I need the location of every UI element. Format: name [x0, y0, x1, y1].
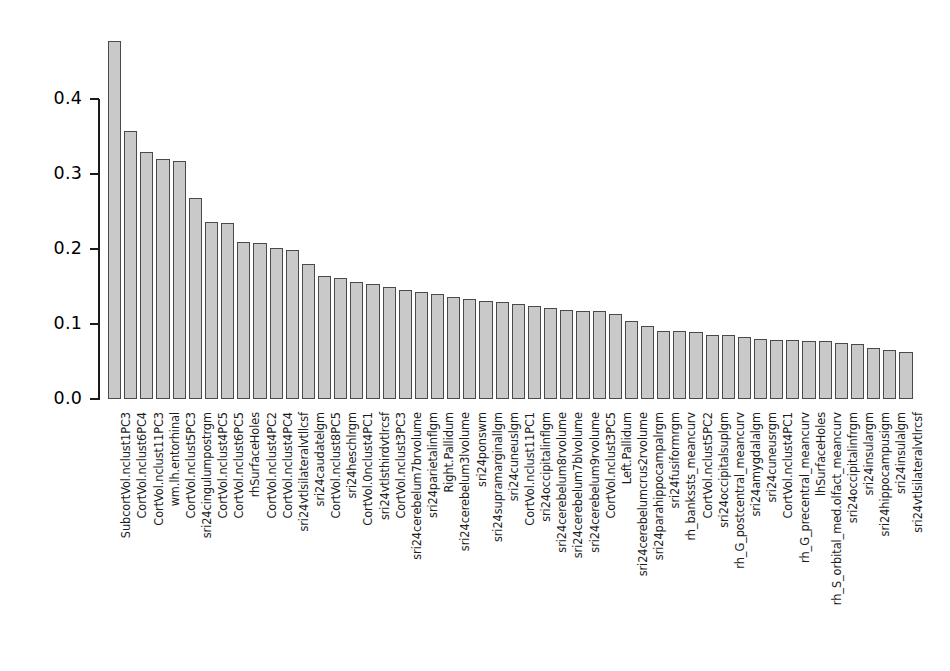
bar — [221, 223, 234, 399]
bar — [641, 326, 654, 400]
x-tick-label: CortVol.nclust4PC1 — [781, 412, 795, 519]
x-tick-label: sri24heschlrgm — [345, 412, 359, 499]
bar — [657, 331, 670, 399]
bar — [205, 222, 218, 399]
x-tick-label: CortVol.nclust3PC3 — [394, 412, 408, 519]
x-tick-label: rh_S_orbital_med.olfact_meancurv — [830, 412, 844, 605]
y-tick-label: 0.3 — [18, 163, 82, 183]
bar — [706, 335, 719, 400]
bar — [625, 321, 638, 399]
x-tick-label: CortVol.nclust11PC3 — [152, 412, 166, 526]
bar — [140, 152, 153, 400]
bar — [286, 250, 299, 399]
x-tick-label: sri24amygdalalgm — [749, 412, 763, 517]
x-tick-label: CortVol.0nclust4PC1 — [361, 412, 375, 526]
x-tick-label: sri24occipitalinfrgm — [846, 412, 860, 523]
y-tick-mark — [90, 173, 99, 175]
bar — [108, 41, 121, 399]
bar-chart: 0.40.30.20.10.0 SubcortVol.nclust1PC3Cor… — [0, 0, 950, 671]
bar — [415, 292, 428, 399]
x-tick-label: CortVol.nclust6PC4 — [135, 412, 149, 519]
y-tick-mark — [90, 398, 99, 400]
bar — [156, 159, 169, 399]
bar — [366, 284, 379, 399]
x-tick-label: wm.lh.entorhinal — [168, 412, 182, 506]
x-tick-label: sri24cerebelumcrus2rvolume — [636, 412, 650, 576]
bar — [496, 302, 509, 399]
x-tick-label: sri24hippocampusigm — [878, 412, 892, 536]
bar — [463, 299, 476, 399]
x-tick-label: SubcortVol.nclust1PC3 — [119, 412, 133, 538]
x-tick-label: sri24cuneuslgm — [507, 412, 521, 501]
bar — [173, 161, 186, 400]
x-tick-label: Right.Pallidum — [442, 412, 456, 493]
bar — [270, 248, 283, 399]
x-tick-label: sri24insulalgm — [894, 412, 908, 494]
x-tick-label: sri24cerebelum7blvolume — [571, 412, 585, 558]
x-tick-label: CortVol.nclust5PC3 — [184, 412, 198, 519]
x-tick-label: sri24cerebelum7brvolume — [410, 412, 424, 560]
bar — [350, 282, 363, 399]
x-tick-label: sri24occipitalinflgm — [539, 412, 553, 522]
x-tick-label: lhSurfaceHoles — [814, 412, 828, 496]
x-tick-label: sri24supramarginallgm — [491, 412, 505, 542]
x-tick-label: sri24vtlsilateralvtlrcsf — [911, 412, 925, 533]
x-tick-label: sri24vtlsthirdvtlrcsf — [378, 412, 392, 520]
bar — [447, 297, 460, 399]
bar — [560, 310, 573, 399]
bar — [237, 242, 250, 399]
bar — [689, 332, 702, 400]
x-tick-label: sri24cerebelum8rvolume — [555, 412, 569, 553]
bar — [867, 348, 880, 399]
x-tick-label: sri24cuneusrgm — [765, 412, 779, 503]
x-tick-label: sri24occipitalsuplgm — [717, 412, 731, 528]
bar — [851, 344, 864, 399]
bar — [786, 340, 799, 399]
x-tick-label: rh_G_postcentral_meancurv — [733, 412, 747, 569]
bar — [770, 340, 783, 399]
bar — [819, 341, 832, 399]
x-tick-label: Left.Pallidum — [620, 412, 634, 484]
x-tick-label: CortVol.nclust11PC1 — [523, 412, 537, 526]
x-tick-label: sri24caudatelgm — [313, 412, 327, 506]
x-tick-label: rh_G_precentral_meancurv — [798, 412, 812, 563]
x-tick-label: CortVol.nclust6PC5 — [232, 412, 246, 519]
bar — [124, 131, 137, 399]
bar — [512, 304, 525, 399]
bar — [528, 306, 541, 399]
bar — [593, 311, 606, 399]
bar — [189, 198, 202, 399]
bar — [479, 301, 492, 399]
y-tick-label: 0.0 — [18, 388, 82, 408]
x-tick-label: sri24cerebelum9rvolume — [588, 412, 602, 553]
bar — [609, 314, 622, 400]
bar — [318, 276, 331, 399]
bar — [431, 294, 444, 399]
x-tick-label: sri24parahippocampalrgm — [652, 412, 666, 560]
x-tick-label: CortVol.nclust8PC5 — [329, 412, 343, 519]
x-tick-label: sri24cingulumpostrgm — [200, 412, 214, 538]
x-tick-label: rhSurfaceHoles — [248, 412, 262, 497]
x-tick-label: sri24fusiformrgm — [668, 412, 682, 508]
x-tick-label: sri24ponswm — [475, 412, 489, 487]
x-tick-label: CortVol.nclust4PC2 — [265, 412, 279, 519]
bar — [673, 331, 686, 399]
bar — [738, 337, 751, 399]
y-tick-label: 0.1 — [18, 313, 82, 333]
bar — [302, 264, 315, 399]
bar — [334, 278, 347, 400]
x-tick-label: sri24cerebelum3lvolume — [458, 412, 472, 551]
x-tick-label: sri24insulargm — [862, 412, 876, 495]
x-tick-label: CortVol.nclust3PC5 — [604, 412, 618, 519]
bar — [399, 290, 412, 399]
bar — [754, 339, 767, 399]
bar — [253, 243, 266, 399]
x-tick-label: sri24vtlsilateralvtllcsf — [297, 412, 311, 532]
bar — [722, 335, 735, 399]
y-tick-label: 0.4 — [18, 88, 82, 108]
y-tick-label: 0.2 — [18, 238, 82, 258]
bar — [883, 350, 896, 400]
x-tick-label: CortVol.nclust4PC5 — [216, 412, 230, 519]
y-tick-mark — [90, 98, 99, 100]
x-tick-label: CortVol.nclust4PC4 — [281, 412, 295, 519]
